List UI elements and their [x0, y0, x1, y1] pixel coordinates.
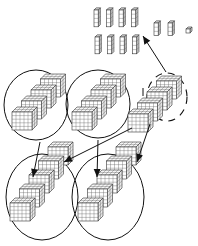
block-front-face — [186, 29, 190, 33]
column-stack — [94, 8, 100, 27]
arrowhead-icon — [143, 36, 150, 45]
block-front-face — [154, 23, 158, 36]
group-b-block — [72, 107, 97, 130]
arrow-group-c-to-columns — [143, 36, 166, 72]
block-front-face — [12, 112, 32, 130]
group-a-block — [12, 107, 37, 130]
block-front-face — [10, 203, 30, 221]
column-stack — [119, 8, 125, 27]
block-front-face — [128, 114, 148, 132]
decomposition-diagram — [0, 0, 198, 246]
column-stack — [120, 35, 126, 54]
column-stack — [108, 35, 114, 54]
block-front-face — [72, 112, 92, 130]
column-stack — [107, 8, 113, 27]
block-front-face — [78, 203, 98, 221]
grid-blocks — [10, 74, 182, 221]
column-stack — [95, 35, 101, 54]
small-column-stack — [154, 21, 160, 36]
group-d-block — [10, 198, 35, 221]
group-e-block — [78, 198, 103, 221]
top-column-stacks — [94, 8, 192, 54]
small-column-stack — [168, 21, 174, 36]
column-stack — [133, 35, 139, 54]
block-front-face — [168, 23, 172, 36]
single-cube — [186, 27, 192, 33]
column-stack — [132, 8, 138, 27]
